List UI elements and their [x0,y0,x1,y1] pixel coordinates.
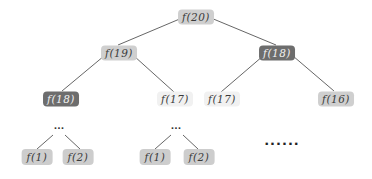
edge-f18-f17 [221,56,263,92]
node-f17-b: f(17) [204,92,240,107]
node-f20: f(20) [178,10,214,25]
ellipsis-left: ... [54,121,64,131]
edge-f20-f19 [118,18,182,45]
edge-f20-f18 [211,18,276,45]
ellipsis-right: ...... [264,133,300,148]
node-f16: f(16) [318,92,354,107]
node-f18-left: f(18) [43,92,79,107]
node-f2-mid: f(2) [184,149,215,165]
ellipsis-mid: ... [171,121,181,131]
edge-dots-f2-mid [183,135,198,149]
node-f19: f(19) [101,46,137,61]
edge-f18-f16 [293,56,334,91]
node-f1-left: f(1) [22,149,53,165]
node-f1-mid: f(1) [140,149,171,165]
node-f2-left: f(2) [63,149,94,165]
node-f18-right: f(18) [259,46,295,61]
edge-f19-f18 [62,56,104,91]
edge-f19-f17 [134,56,174,92]
edge-dots-f1-mid [155,135,171,149]
node-f17-a: f(17) [157,92,193,107]
edge-dots-f2-left [65,135,80,149]
edge-dots-f1-left [37,135,53,149]
